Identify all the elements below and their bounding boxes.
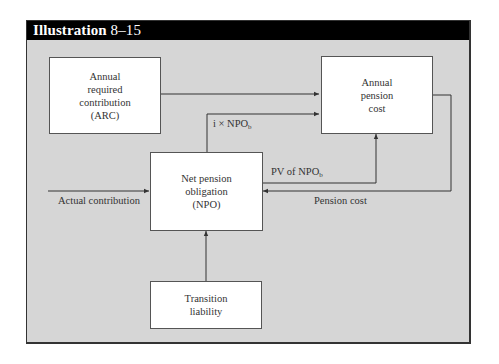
cost-line-3: cost: [361, 102, 394, 115]
transition-liability-box: Transition liability: [150, 281, 262, 329]
pension-cost-label: Pension cost: [314, 195, 367, 206]
transition-line-1: Transition: [185, 292, 228, 305]
cost-line-2: pension: [361, 89, 394, 102]
npo-box: Net pension obligation (NPO): [150, 152, 263, 231]
arc-line-3: contribution: [79, 96, 130, 109]
npo-line-2: obligation: [181, 185, 231, 198]
interest-label: i × NPOb: [213, 118, 252, 131]
arc-line-4: (ARC): [79, 109, 130, 122]
arc-line-1: Annual: [79, 70, 130, 83]
pv-label: PV of NPOb: [271, 166, 323, 179]
npo-line-3: (NPO): [181, 198, 231, 211]
arc-box: Annual required contribution (ARC): [49, 57, 161, 134]
arc-line-2: required: [79, 83, 130, 96]
interest-label-subscript: b: [248, 123, 252, 131]
actual-contribution-label: Actual contribution: [58, 195, 140, 206]
annual-pension-cost-box: Annual pension cost: [321, 56, 433, 134]
pv-label-subscript: b: [319, 171, 323, 179]
cost-line-1: Annual: [361, 76, 394, 89]
npo-line-1: Net pension: [181, 172, 231, 185]
transition-line-2: liability: [185, 305, 228, 318]
pv-label-text: PV of NPO: [271, 166, 319, 177]
interest-label-text: i × NPO: [213, 118, 248, 129]
